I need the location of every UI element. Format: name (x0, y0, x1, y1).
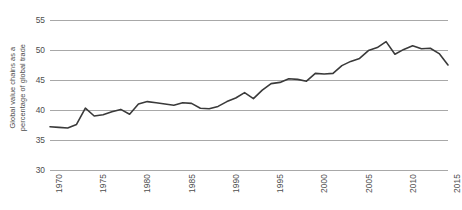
y-axis-tick-label: 55 (36, 15, 45, 25)
gridline (50, 170, 448, 171)
y-axis-title-line-1: Global value chains as a (8, 44, 18, 131)
y-axis-tick-label: 30 (36, 165, 45, 175)
x-axis-tick-label: 2005 (364, 174, 374, 193)
y-axis-tick-label: 40 (36, 105, 45, 115)
x-axis-tick-label: 1970 (54, 174, 64, 193)
x-axis-tick-label: 2015 (452, 174, 462, 193)
x-axis-tick-label: 1975 (98, 174, 108, 193)
x-axis-tick-label: 2000 (319, 174, 329, 193)
y-axis-tick-label: 35 (36, 135, 45, 145)
x-axis-tick-label: 1985 (187, 174, 197, 193)
x-axis-tick-label: 1995 (275, 174, 285, 193)
y-axis-tick-label: 50 (36, 45, 45, 55)
x-axis-tick-label: 1990 (231, 174, 241, 193)
series-line-chart (50, 20, 448, 170)
plot-area: 303540455055 197019751980198519901995200… (50, 20, 448, 170)
x-axis-tick-label: 1980 (142, 174, 152, 193)
series-line-path (50, 42, 448, 128)
y-axis-title-line-2: percentage of global trade (18, 44, 28, 131)
y-axis-tick-label: 45 (36, 75, 45, 85)
y-axis-title: Global value chains as a percentage of g… (0, 0, 36, 175)
x-axis-tick-label: 2010 (408, 174, 418, 193)
